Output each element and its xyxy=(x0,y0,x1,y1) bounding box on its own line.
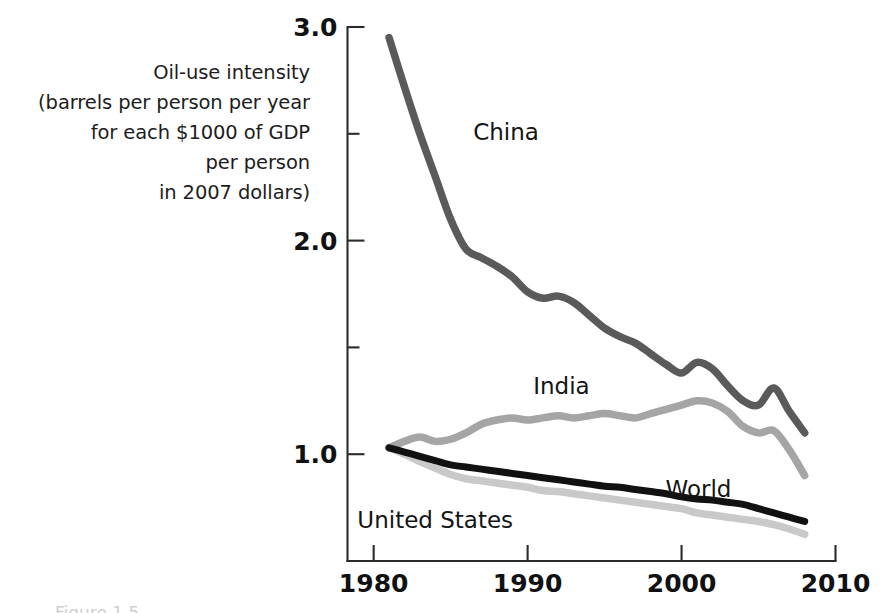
figure-caption-fragment: Figure 1.5 xyxy=(55,603,375,613)
series-label-china: China xyxy=(473,119,539,145)
x-tick-label-1980: 1980 xyxy=(339,569,409,598)
y-tick-label-2.0: 2.0 xyxy=(293,227,337,256)
x-axis-ticks: 1980199020002010 xyxy=(339,545,870,598)
y-tick-label-1.0: 1.0 xyxy=(293,440,337,469)
x-tick-label-2000: 2000 xyxy=(647,569,717,598)
x-tick-label-1990: 1990 xyxy=(493,569,563,598)
x-tick-label-2010: 2010 xyxy=(801,569,871,598)
series-annotations: ChinaIndiaWorldUnited States xyxy=(357,119,731,533)
series-label-united-states: United States xyxy=(357,507,513,533)
series-label-india: India xyxy=(533,373,589,399)
series-label-world: World xyxy=(666,476,732,502)
y-tick-label-3.0: 3.0 xyxy=(293,13,337,42)
series-line-china xyxy=(389,38,805,433)
y-axis-ticks: 1.02.03.0 xyxy=(293,13,364,469)
figure-container: Oil-use intensity (barrels per person pe… xyxy=(0,0,886,613)
line-chart: 1.02.03.0 1980199020002010 ChinaIndiaWor… xyxy=(0,0,886,613)
series-lines xyxy=(389,38,805,535)
